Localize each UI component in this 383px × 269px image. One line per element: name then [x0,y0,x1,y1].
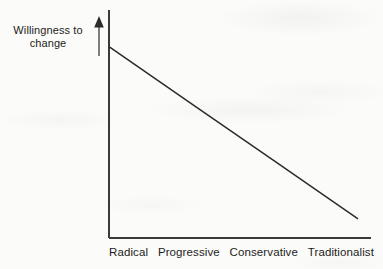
x-tick-label-radical: Radical [109,245,148,259]
x-tick-label-traditionalist: Traditionalist [308,245,374,259]
x-tick-label-progressive: Progressive [158,245,220,259]
up-arrow-icon [94,16,104,56]
x-tick-label-conservative: Conservative [230,245,298,259]
y-axis-label-line-1: Willingness to [13,24,82,36]
x-axis-tick-labels: Radical Progressive Conservative Traditi… [109,245,374,259]
y-axis-label-line-2: change [30,37,67,49]
y-axis-label: Willingness to change [6,24,90,50]
data-series-line [109,47,358,219]
chart-figure: Willingness to change Radical Progressiv… [0,0,383,269]
